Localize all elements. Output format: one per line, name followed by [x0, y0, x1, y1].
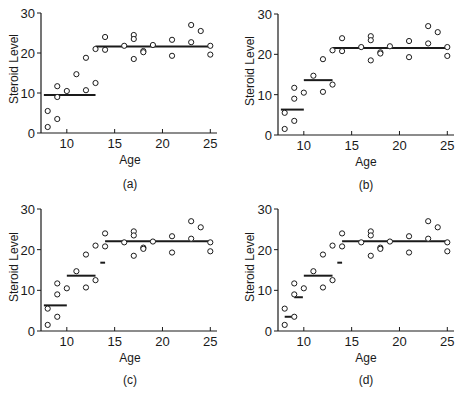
data-point	[131, 56, 136, 61]
x-tick-label: 20	[155, 136, 169, 151]
data-point	[339, 244, 344, 249]
data-point	[189, 236, 194, 241]
x-axis-label: Age	[336, 351, 396, 365]
y-tick-label: 30	[21, 202, 35, 217]
data-point	[282, 322, 287, 327]
data-point	[102, 47, 107, 52]
x-tick-label: 15	[107, 136, 121, 151]
data-point	[74, 269, 79, 274]
y-tick-label: 10	[258, 283, 272, 298]
data-point	[292, 292, 297, 297]
data-point	[311, 269, 316, 274]
data-point	[292, 85, 297, 90]
data-point	[320, 252, 325, 257]
data-point	[141, 246, 146, 251]
data-point	[339, 36, 344, 41]
data-point	[55, 116, 60, 121]
data-point	[368, 233, 373, 238]
data-point	[426, 41, 431, 46]
y-tick-label: 30	[258, 202, 272, 217]
data-point	[55, 292, 60, 297]
y-tick-label: 30	[258, 7, 272, 22]
x-tick-label: 20	[392, 138, 406, 153]
y-tick-label: 10	[21, 283, 35, 298]
data-point	[359, 240, 364, 245]
data-point	[189, 219, 194, 224]
data-point	[169, 250, 174, 255]
data-point	[445, 240, 450, 245]
y-tick-label: 0	[265, 128, 272, 143]
data-point	[93, 243, 98, 248]
x-tick-label: 25	[203, 334, 217, 349]
data-point	[292, 314, 297, 319]
x-tick-label: 25	[203, 136, 217, 151]
data-point	[359, 44, 364, 49]
data-point	[198, 225, 203, 230]
data-point	[198, 28, 203, 33]
x-tick-label: 25	[440, 334, 454, 349]
x-axis-label: Age	[336, 155, 396, 169]
data-point	[282, 306, 287, 311]
y-tick-label: 20	[258, 47, 272, 62]
data-point	[102, 231, 107, 236]
data-point	[131, 233, 136, 238]
y-tick-label: 20	[258, 243, 272, 258]
x-tick-label: 15	[344, 138, 358, 153]
data-point	[93, 80, 98, 85]
y-tick-label: 30	[21, 6, 35, 21]
data-point	[131, 253, 136, 258]
data-point	[311, 73, 316, 78]
data-point	[83, 285, 88, 290]
y-axis-label: Steroid Level	[243, 227, 257, 307]
data-point	[189, 22, 194, 27]
data-point	[445, 249, 450, 254]
data-point	[208, 43, 213, 48]
y-tick-label: 10	[21, 86, 35, 101]
data-point	[150, 239, 155, 244]
data-point	[55, 281, 60, 286]
data-point	[45, 306, 50, 311]
data-point	[189, 40, 194, 45]
data-point	[122, 43, 127, 48]
data-point	[301, 90, 306, 95]
y-tick-label: 20	[21, 46, 35, 61]
x-tick-label: 25	[440, 138, 454, 153]
data-point	[339, 231, 344, 236]
x-axis-label: Age	[100, 153, 160, 167]
data-point	[378, 51, 383, 56]
x-tick-label: 10	[60, 136, 74, 151]
y-tick-label: 0	[265, 324, 272, 339]
data-point	[387, 239, 392, 244]
data-point	[320, 285, 325, 290]
data-point	[435, 225, 440, 230]
data-point	[83, 55, 88, 60]
panel-caption: (a)	[110, 177, 150, 191]
panel-caption: (c)	[110, 373, 150, 387]
data-point	[55, 314, 60, 319]
y-tick-label: 10	[258, 88, 272, 103]
y-tick-label: 0	[28, 126, 35, 141]
data-point	[339, 49, 344, 54]
data-point	[426, 24, 431, 29]
data-point	[445, 44, 450, 49]
data-point	[141, 50, 146, 55]
data-point	[208, 52, 213, 57]
data-point	[387, 44, 392, 49]
data-point	[406, 234, 411, 239]
data-point	[320, 57, 325, 62]
data-point	[169, 37, 174, 42]
data-point	[445, 53, 450, 58]
data-point	[45, 108, 50, 113]
chart-panel-c: 010203010152025 Steroid Level Age (c)	[0, 196, 229, 392]
data-point	[169, 234, 174, 239]
data-point	[368, 253, 373, 258]
data-point	[406, 55, 411, 60]
data-point	[64, 88, 69, 93]
data-point	[93, 278, 98, 283]
data-point	[378, 246, 383, 251]
data-point	[426, 236, 431, 241]
data-point	[64, 286, 69, 291]
data-point	[368, 58, 373, 63]
data-point	[282, 110, 287, 115]
y-axis-label: Steroid Level	[7, 29, 21, 109]
